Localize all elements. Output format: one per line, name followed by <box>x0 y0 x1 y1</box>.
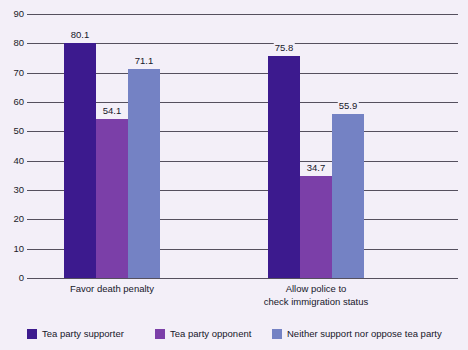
legend-item[interactable]: Tea party opponent <box>155 328 251 340</box>
tick-mark <box>27 161 37 162</box>
bar-value-label: 55.9 <box>338 100 359 112</box>
gridline <box>37 278 458 279</box>
x-axis-label: Allow police to check immigration status <box>226 283 406 308</box>
legend-label: Tea party supporter <box>42 328 124 340</box>
legend-color-swatch <box>272 329 282 339</box>
legend-item[interactable]: Tea party supporter <box>27 328 124 340</box>
y-axis-tick-label: 80 <box>13 36 24 49</box>
tick-mark <box>27 278 37 279</box>
y-axis-tick-label: 10 <box>13 242 24 255</box>
tick-mark <box>27 131 37 132</box>
y-axis-tick-label: 90 <box>13 7 24 20</box>
tick-mark <box>27 73 37 74</box>
bar[interactable]: 75.8 <box>268 56 300 278</box>
bar-chart: 9080706050403020100 80.154.171.175.834.7… <box>0 0 468 350</box>
bar-value-label: 75.8 <box>274 42 295 54</box>
bar[interactable]: 55.9 <box>332 114 364 278</box>
y-axis-tick-label: 50 <box>13 124 24 137</box>
tick-mark <box>27 43 37 44</box>
bar-value-label: 34.7 <box>306 162 327 174</box>
bar-value-label: 54.1 <box>102 105 123 117</box>
bar-value-label: 71.1 <box>134 55 155 67</box>
y-axis-tick-label: 40 <box>13 154 24 167</box>
tick-mark <box>27 102 37 103</box>
legend-color-swatch <box>27 329 37 339</box>
y-axis-tick-label: 30 <box>13 183 24 196</box>
bar[interactable]: 34.7 <box>300 176 332 278</box>
x-axis-label: Favor death penalty <box>22 283 202 296</box>
bar-group: 80.154.171.1 <box>64 14 160 278</box>
y-axis-tick-label: 60 <box>13 95 24 108</box>
legend-color-swatch <box>155 329 165 339</box>
tick-mark <box>27 249 37 250</box>
legend-item[interactable]: Neither support nor oppose tea party <box>272 328 442 340</box>
bar-value-label: 80.1 <box>70 29 91 41</box>
bar-group: 75.834.755.9 <box>268 14 364 278</box>
legend-label: Neither support nor oppose tea party <box>287 328 442 340</box>
bar[interactable]: 80.1 <box>64 43 96 278</box>
chart-legend: Tea party supporterTea party opponentNei… <box>0 328 468 344</box>
y-axis-tick-label: 70 <box>13 66 24 79</box>
legend-label: Tea party opponent <box>170 328 251 340</box>
bar[interactable]: 71.1 <box>128 69 160 278</box>
y-axis-tick-label: 20 <box>13 212 24 225</box>
bar[interactable]: 54.1 <box>96 119 128 278</box>
tick-mark <box>27 219 37 220</box>
tick-mark <box>27 14 37 15</box>
tick-mark <box>27 190 37 191</box>
